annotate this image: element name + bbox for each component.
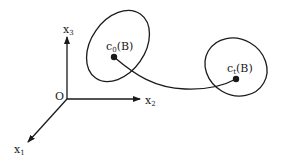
kinematics-diagram: x3 x2 x1 O c0(B) ct(B) [0,0,283,164]
initial-config-label: c0(B) [106,41,133,54]
trajectory-curve [114,57,236,89]
current-config-label: ct(B) [227,63,253,76]
diagram-graphics [0,0,283,164]
x3-label: x3 [63,24,74,37]
x2-label: x2 [145,95,156,108]
origin-label: O [55,91,64,102]
x1-label: x1 [14,144,25,157]
x1-axis [28,99,67,142]
initial-point [111,54,117,60]
current-point [233,76,239,82]
